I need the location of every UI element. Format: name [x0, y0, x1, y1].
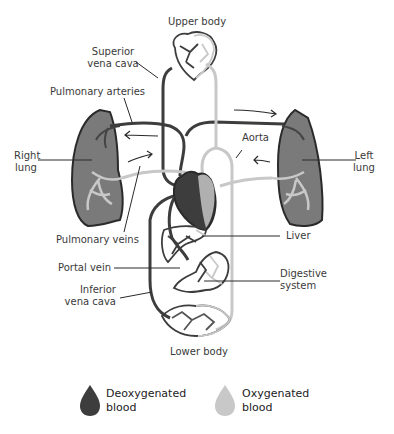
upper-body-capillaries: [173, 32, 216, 80]
arrow-icon: [125, 131, 158, 139]
arrow-icon: [254, 156, 270, 164]
label-pulmonary-veins: Pulmonary veins: [56, 234, 139, 246]
label-right-lung: Right lung: [14, 150, 38, 174]
lower-body-capillaries: [162, 305, 230, 336]
label-pulmonary-arteries: Pulmonary arteries: [50, 86, 145, 98]
blood-drop-icon: [80, 385, 100, 416]
right-lung: [72, 110, 123, 226]
label-digestive-system: Digestive system: [280, 268, 327, 292]
label-left-lung: Left lung: [352, 150, 376, 174]
digestive-system: [174, 252, 229, 292]
liver: [162, 226, 206, 262]
circulatory-diagram: [0, 0, 394, 434]
arrow-icon: [128, 151, 152, 162]
arrow-icon: [234, 110, 276, 117]
legend-deoxygenated: Deoxygenated blood: [106, 387, 186, 415]
label-aorta: Aorta: [242, 132, 269, 144]
legend-oxygenated: Oxygenated blood: [242, 387, 309, 415]
blood-drop-icon: [215, 385, 235, 416]
heart: [174, 172, 216, 230]
label-upper-body: Upper body: [162, 16, 232, 28]
label-portal-vein: Portal vein: [58, 262, 111, 274]
label-liver: Liver: [286, 230, 311, 242]
label-inferior-vena-cava: Inferior vena cava: [60, 284, 116, 308]
label-lower-body: Lower body: [164, 346, 234, 358]
left-lung: [272, 110, 322, 226]
label-superior-vena-cava: Superior vena cava: [78, 46, 148, 70]
